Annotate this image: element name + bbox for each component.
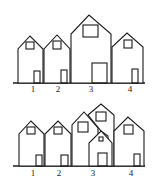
top-label-2: 2 (56, 84, 61, 94)
bottom-label-1: 1 (31, 168, 36, 178)
top-house-4 (112, 33, 143, 83)
top-diagram: 1 2 3 4 (13, 15, 145, 94)
bottom-label-4: 4 (129, 168, 134, 178)
top-house-1 (18, 36, 43, 83)
bottom-house-2 (45, 121, 71, 166)
bottom-house-1 (19, 121, 44, 166)
top-label-3: 3 (89, 84, 94, 94)
top-label-4: 4 (128, 84, 133, 94)
top-label-1: 1 (31, 84, 36, 94)
bottom-label-3: 3 (91, 168, 96, 178)
bottom-diagram: 1 2 3 4 (13, 104, 145, 178)
bottom-label-2: 2 (57, 168, 62, 178)
top-house-3 (71, 15, 111, 83)
bottom-house-3-cluster (72, 104, 114, 166)
houses-diagram: 1 2 3 4 (0, 0, 157, 185)
top-house-2 (44, 35, 70, 83)
bottom-house-4 (114, 117, 144, 166)
